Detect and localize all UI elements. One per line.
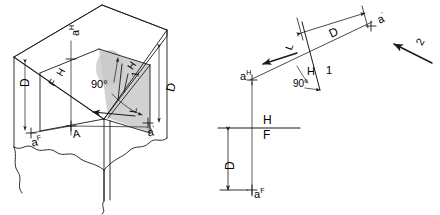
ortho-fold-h-aux: H [307, 66, 315, 77]
torn-edge-left [14, 146, 104, 170]
ortho-dim-d-front: D [224, 161, 236, 170]
ortho-fold-h: H [263, 114, 272, 126]
proj-af-line [31, 126, 71, 133]
d-dim-tick-right [362, 6, 368, 28]
orthographic-group [218, 6, 432, 196]
torn-edge-left-lower [14, 147, 22, 193]
pictorial-dim-d-left: D [19, 78, 31, 87]
figure-svg [0, 0, 440, 215]
pictorial-label-plane-a: A [72, 128, 81, 140]
ortho-label-af: aF [254, 187, 264, 200]
d-dim-tick-left [297, 18, 303, 40]
technical-drawing-canvas: aH aF a' D D H F 90° H 1 A L aH a' D [0, 0, 440, 215]
pictorial-label-ah: aH [68, 25, 81, 36]
torn-edge-right [104, 138, 167, 170]
ortho-fold-1-aux: 1 [326, 65, 332, 76]
direction-arrow-2 [394, 44, 432, 63]
ortho-fold-f: F [263, 129, 270, 141]
torn-edge-bottom [102, 170, 104, 214]
pictorial-group [14, 5, 167, 214]
tl-arrow-ortho [263, 53, 297, 64]
pictorial-angle-90: 90° [91, 79, 108, 90]
ortho-label-ah: aH [240, 69, 251, 82]
ortho-angle-90: 90° [293, 79, 308, 89]
